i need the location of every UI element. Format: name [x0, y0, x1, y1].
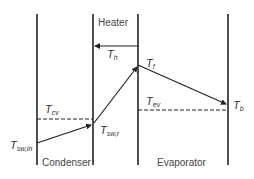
t-sw-r-label: Tsw,r	[100, 125, 119, 137]
evaporator-label: Evaporator	[157, 158, 206, 168]
t-cv-label: Tcv	[45, 104, 59, 116]
heater-temperature-rise-line	[94, 67, 137, 123]
t-b-label: Tb	[233, 100, 244, 112]
condenser-temperature-line	[37, 125, 91, 143]
t-h-label: Th	[107, 49, 118, 61]
t-f-label: Tf	[146, 58, 155, 70]
t-ev-label: Tev	[146, 96, 160, 108]
condenser-label: Condenser	[42, 158, 91, 168]
t-sw-in-label: Tsw,in	[10, 140, 32, 152]
heater-label: Heater	[98, 18, 128, 28]
